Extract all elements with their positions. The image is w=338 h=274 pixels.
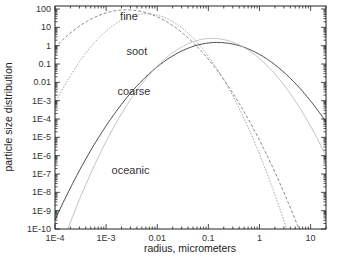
x-tick-label: 1 xyxy=(257,233,262,243)
x-axis-ticks: 1E-41E-30.010.1110 xyxy=(45,6,326,243)
y-tick-label: 1E-8 xyxy=(32,187,51,197)
y-tick-label: 1E-4 xyxy=(32,114,51,124)
y-tick-label: 1E-9 xyxy=(32,206,51,216)
x-axis-label: radius, micrometers xyxy=(144,242,236,254)
y-tick-label: 1E-5 xyxy=(32,132,51,142)
y-axis-ticks: 1001010.10.011E-31E-41E-51E-61E-71E-81E-… xyxy=(27,4,326,234)
size-distribution-chart: 1E-41E-30.010.1110 1001010.10.011E-31E-4… xyxy=(0,0,338,274)
y-tick-label: 1E-6 xyxy=(32,151,51,161)
data-curves xyxy=(55,10,326,248)
y-tick-label: 0.1 xyxy=(38,59,51,69)
y-axis-label: particle size distribution xyxy=(2,62,14,171)
curve-fine xyxy=(55,10,326,248)
curve-label-soot: soot xyxy=(127,45,148,57)
curve-labels: finesootcoarseoceanic xyxy=(112,10,151,176)
y-tick-label: 10 xyxy=(41,22,51,32)
y-tick-label: 1E-7 xyxy=(32,169,51,179)
x-tick-label: 1E-3 xyxy=(97,233,116,243)
curve-label-coarse: coarse xyxy=(117,85,150,97)
curve-soot xyxy=(55,14,326,248)
curve-label-oceanic: oceanic xyxy=(112,164,150,176)
y-tick-label: 1E-3 xyxy=(32,96,51,106)
curve-coarse xyxy=(55,42,326,220)
y-tick-label: 100 xyxy=(36,4,51,14)
y-tick-label: 1 xyxy=(46,41,51,51)
y-tick-label: 1E-10 xyxy=(27,224,51,234)
y-tick-label: 0.01 xyxy=(33,77,51,87)
curve-label-fine: fine xyxy=(120,10,138,22)
x-tick-label: 1E-4 xyxy=(45,233,64,243)
x-tick-label: 10 xyxy=(306,233,316,243)
